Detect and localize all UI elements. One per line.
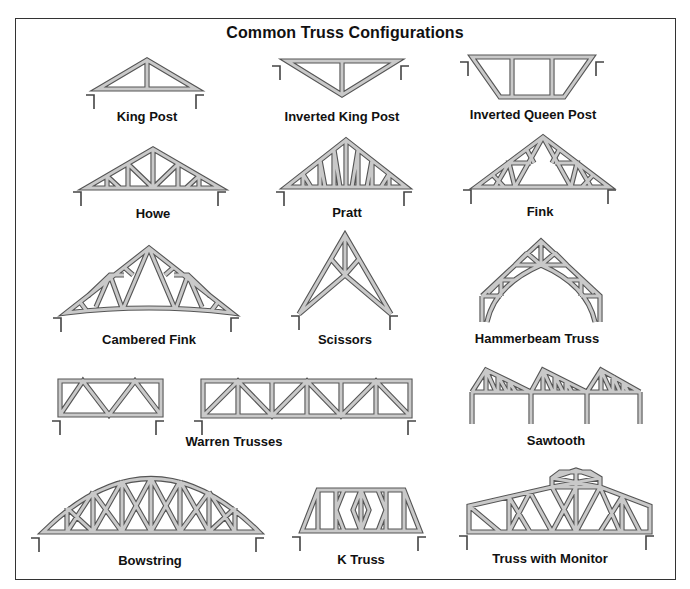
- label-howe: Howe: [136, 206, 171, 221]
- warren-truss-long: [194, 381, 416, 435]
- label-pratt: Pratt: [332, 205, 362, 220]
- label-inverted-queen-post: Inverted Queen Post: [470, 107, 596, 122]
- sawtooth-truss: [472, 370, 640, 424]
- support-right-icon: [196, 95, 204, 109]
- label-hammerbeam: Hammerbeam Truss: [475, 331, 599, 346]
- inverted-queen-post-truss: [460, 57, 604, 97]
- label-bowstring: Bowstring: [118, 553, 182, 568]
- label-cambered-fink: Cambered Fink: [102, 332, 196, 347]
- k-truss: [292, 490, 426, 551]
- truss-with-monitor: [459, 470, 654, 550]
- inverted-king-post-truss: [272, 61, 409, 95]
- king-post-truss: [86, 60, 204, 109]
- howe-truss: [73, 149, 226, 206]
- label-scissors: Scissors: [318, 332, 372, 347]
- label-fink: Fink: [527, 204, 554, 219]
- bowstring-truss: [31, 478, 264, 552]
- cambered-fink-truss: [53, 248, 239, 332]
- label-king-post: King Post: [117, 109, 178, 124]
- truss-diagrams: [0, 0, 690, 589]
- label-sawtooth: Sawtooth: [527, 433, 586, 448]
- label-warren-trusses: Warren Trusses: [185, 434, 282, 449]
- scissors-truss: [291, 235, 398, 330]
- label-k-truss: K Truss: [337, 552, 385, 567]
- pratt-truss: [276, 140, 412, 206]
- warren-truss-short: [52, 381, 164, 435]
- label-truss-with-monitor: Truss with Monitor: [492, 551, 608, 566]
- fink-truss: [463, 137, 616, 204]
- support-left-icon: [86, 95, 94, 109]
- label-inverted-king-post: Inverted King Post: [285, 109, 400, 124]
- hammerbeam-truss: [482, 241, 600, 322]
